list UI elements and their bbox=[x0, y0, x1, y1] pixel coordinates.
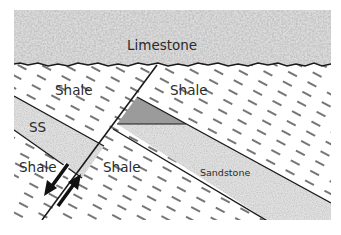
shale-lower-right-label: Shale bbox=[103, 159, 140, 175]
sandstone-right-label: Sandstone bbox=[200, 167, 250, 178]
shale-upper-right-label: Shale bbox=[170, 82, 207, 98]
shale-lower-left-label: Shale bbox=[19, 159, 56, 175]
geologic-cross-section: Limestone Shale Shale SS Shale Shale San… bbox=[0, 0, 341, 235]
ss-left-label: SS bbox=[29, 119, 46, 135]
limestone-label: Limestone bbox=[127, 37, 197, 53]
shale-upper-left-label: Shale bbox=[55, 82, 92, 98]
